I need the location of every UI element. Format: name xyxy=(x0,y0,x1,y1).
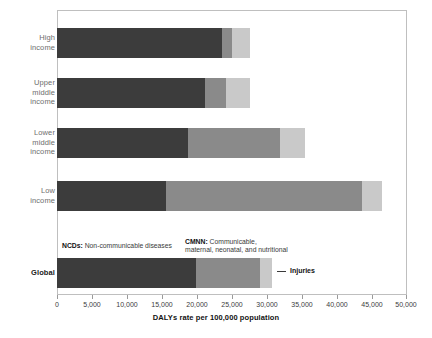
bar-segment-injuries[interactable] xyxy=(362,181,382,211)
y-label-high-income: High income xyxy=(3,33,55,52)
legend-ncds-text: Non-communicable diseases xyxy=(83,242,172,249)
x-ticklabel-45000: 45,000 xyxy=(361,301,382,308)
bar-segment-ncds[interactable] xyxy=(57,258,196,288)
legend-cmnn-prefix: CMNN: xyxy=(185,238,208,245)
y-label-global: Global xyxy=(3,268,55,278)
x-ticklabel-40000: 40,000 xyxy=(326,301,347,308)
bar-segment-injuries[interactable] xyxy=(260,258,272,288)
bar-segment-injuries[interactable] xyxy=(280,128,305,158)
y-label-upper-middle-income: Upper middle income xyxy=(3,78,55,107)
x-axis-title: DALYs rate per 100,000 population xyxy=(0,313,432,322)
x-tick-5000 xyxy=(92,295,93,299)
x-tick-45000 xyxy=(372,295,373,299)
legend-cmnn: CMNN: Communicable, maternal, neonatal, … xyxy=(185,229,288,255)
bar-segment-cmnn[interactable] xyxy=(222,28,232,58)
bar-segment-ncds[interactable] xyxy=(57,78,205,108)
legend-ncds-prefix: NCDs: xyxy=(62,242,83,249)
x-tick-10000 xyxy=(127,295,128,299)
y-label-lower-middle-income: Lower middle income xyxy=(3,128,55,157)
bar-segment-injuries[interactable] xyxy=(226,78,250,108)
x-ticklabel-35000: 35,000 xyxy=(291,301,312,308)
bar-segment-ncds[interactable] xyxy=(57,181,166,211)
bar-segment-cmnn[interactable] xyxy=(205,78,226,108)
injuries-leader-line xyxy=(277,271,286,272)
x-tick-25000 xyxy=(232,295,233,299)
x-ticklabel-30000: 30,000 xyxy=(256,301,277,308)
bar-group-high-income xyxy=(57,28,407,58)
x-ticklabel-25000: 25,000 xyxy=(221,301,242,308)
bar-group-upper-middle-income xyxy=(57,78,407,108)
x-ticklabel-10000: 10,000 xyxy=(116,301,137,308)
bar-group-low-income xyxy=(57,181,407,211)
x-tick-15000 xyxy=(162,295,163,299)
x-ticklabel-5000: 5,000 xyxy=(83,301,101,308)
x-ticklabel-20000: 20,000 xyxy=(186,301,207,308)
legend-injuries: Injuries xyxy=(290,267,315,274)
y-label-low-income: Low income xyxy=(3,186,55,205)
bar-segment-cmnn[interactable] xyxy=(166,181,362,211)
x-tick-40000 xyxy=(337,295,338,299)
x-tick-30000 xyxy=(267,295,268,299)
x-tick-35000 xyxy=(302,295,303,299)
bar-group-lower-middle-income xyxy=(57,128,407,158)
bar-segment-ncds[interactable] xyxy=(57,128,188,158)
x-ticklabel-15000: 15,000 xyxy=(151,301,172,308)
bar-segment-injuries[interactable] xyxy=(232,28,250,58)
x-tick-0 xyxy=(57,295,58,299)
bar-group-global xyxy=(57,258,407,288)
x-ticklabel-0: 0 xyxy=(55,301,59,308)
bar-segment-cmnn[interactable] xyxy=(188,128,280,158)
bar-segment-ncds[interactable] xyxy=(57,28,222,58)
x-tick-50000 xyxy=(406,295,407,299)
chart-container: High income Upper middle income Lower mi… xyxy=(0,0,432,338)
x-ticklabel-50000: 50,000 xyxy=(395,301,416,308)
legend-ncds: NCDs: Non-communicable diseases xyxy=(62,233,172,250)
x-tick-20000 xyxy=(197,295,198,299)
bar-segment-cmnn[interactable] xyxy=(196,258,260,288)
